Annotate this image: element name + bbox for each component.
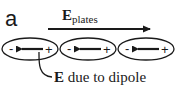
field-symbol: E	[62, 7, 72, 23]
plates-field-label: Eplates	[62, 7, 98, 25]
dipole: - +	[118, 38, 174, 60]
panel-label: a	[5, 6, 18, 31]
dipole-field-label: E due to dipole	[54, 69, 146, 85]
dipole: - +	[2, 38, 58, 60]
field-subscript: plates	[72, 13, 98, 25]
dipole-diagram: a Eplates - + - + - + E due to dipole	[0, 0, 179, 93]
dipole-field-symbol: E	[54, 69, 64, 85]
positive-charge: +	[161, 42, 169, 57]
positive-charge: +	[45, 42, 53, 57]
dipole-field-text: due to dipole	[64, 69, 146, 85]
dipole: - +	[60, 38, 116, 60]
positive-charge: +	[103, 42, 111, 57]
negative-charge: -	[67, 41, 71, 56]
negative-charge: -	[125, 41, 129, 56]
negative-charge: -	[9, 41, 13, 56]
